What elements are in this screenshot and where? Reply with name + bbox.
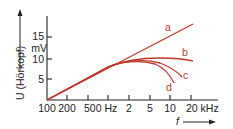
arrow-right-icon xyxy=(209,120,216,125)
arrow-up-icon xyxy=(18,9,23,16)
curve-label-c: c xyxy=(183,69,188,81)
y-axis-label-group: U (Hörkopf) xyxy=(14,9,26,100)
x-tick-500: 500 Hz xyxy=(84,102,117,114)
x-tick-2k: 2 xyxy=(126,102,132,114)
axes xyxy=(47,16,218,100)
y-tick-10: 10 xyxy=(32,53,44,65)
x-tick-5k: 5 xyxy=(147,102,153,114)
x-axis-label: f xyxy=(176,115,180,127)
curve-label-a: a xyxy=(165,21,171,33)
y-unit: mV xyxy=(31,42,47,54)
curve-label-b: b xyxy=(182,46,188,58)
y-tick-15: 15 xyxy=(32,30,44,42)
curve-c xyxy=(47,61,182,100)
curve-label-d: d xyxy=(166,81,172,93)
chart: U (Hörkopf) 5 10 15 mV 100 200 500 Hz 2 … xyxy=(0,0,233,129)
x-tick-100: 100 xyxy=(38,102,56,114)
x-tick-20k: 20 kHz xyxy=(186,102,219,114)
x-tick-10k: 10 xyxy=(164,102,176,114)
x-tick-200: 200 xyxy=(58,102,76,114)
y-axis-label: U (Hörkopf) xyxy=(14,46,26,100)
y-tick-5: 5 xyxy=(38,73,44,85)
